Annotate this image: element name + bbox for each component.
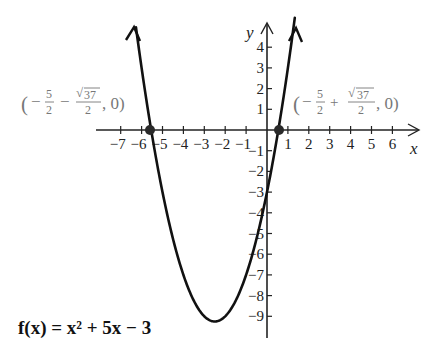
x-tick-label: −7 bbox=[110, 136, 126, 152]
svg-text:−: − bbox=[31, 92, 41, 111]
parabola-curve bbox=[136, 18, 295, 322]
left-root-label: ( − 5 2 − √ 37 2 , 0) bbox=[21, 85, 125, 117]
parabola-plot: −7−6−5−4−3−2−1123456 4321−1−2−3−4−5−6−7−… bbox=[0, 0, 445, 349]
x-tick-label: −4 bbox=[172, 136, 188, 152]
x-tick-label: 4 bbox=[347, 136, 355, 152]
x-tick-label: −3 bbox=[193, 136, 209, 152]
y-tick-label: 4 bbox=[257, 39, 265, 55]
x-tick-label: 3 bbox=[326, 136, 334, 152]
svg-text:√: √ bbox=[348, 85, 356, 100]
svg-text:−: − bbox=[60, 92, 70, 111]
x-tick-label: 1 bbox=[284, 136, 292, 152]
y-tick-label: 3 bbox=[257, 60, 265, 76]
svg-text:(: ( bbox=[21, 92, 28, 116]
x-axis-label: x bbox=[409, 139, 418, 158]
x-tick-label: 6 bbox=[389, 136, 397, 152]
svg-text:+: + bbox=[330, 94, 338, 110]
svg-text:−: − bbox=[302, 92, 312, 111]
svg-text:2: 2 bbox=[85, 103, 91, 117]
y-tick-label: 2 bbox=[257, 81, 265, 97]
svg-text:37: 37 bbox=[84, 88, 96, 102]
svg-text:(: ( bbox=[293, 92, 300, 116]
right-root-label: ( − 5 2 + √ 37 2 , 0) bbox=[293, 85, 399, 117]
y-tick-label: 1 bbox=[257, 101, 265, 117]
svg-text:5: 5 bbox=[317, 87, 323, 101]
y-tick-label: −2 bbox=[248, 163, 264, 179]
curve-right-arrow-icon bbox=[289, 28, 302, 42]
x-tick-label: 5 bbox=[368, 136, 376, 152]
function-label: f(x) = x² + 5x − 3 bbox=[18, 317, 151, 339]
x-tick-label: −6 bbox=[131, 136, 147, 152]
left-root-dot bbox=[145, 125, 155, 135]
svg-text:, 0): , 0) bbox=[102, 94, 125, 113]
x-tick-label: 2 bbox=[305, 136, 313, 152]
y-axis-label: y bbox=[244, 23, 254, 42]
svg-text:√: √ bbox=[76, 85, 84, 100]
svg-text:5: 5 bbox=[46, 87, 52, 101]
y-tick-label: −3 bbox=[248, 184, 264, 200]
svg-text:2: 2 bbox=[46, 103, 52, 117]
svg-text:37: 37 bbox=[357, 88, 369, 102]
y-tick-label: −9 bbox=[248, 308, 264, 324]
svg-text:2: 2 bbox=[317, 103, 323, 117]
y-tick-label: −8 bbox=[248, 288, 264, 304]
right-root-dot bbox=[274, 125, 284, 135]
x-tick-label: −2 bbox=[214, 136, 230, 152]
svg-text:2: 2 bbox=[358, 103, 364, 117]
y-tick-label: −1 bbox=[248, 143, 264, 159]
svg-text:, 0): , 0) bbox=[376, 94, 399, 113]
y-tick-label: −7 bbox=[248, 267, 264, 283]
curve-left-arrow-icon bbox=[126, 27, 140, 41]
